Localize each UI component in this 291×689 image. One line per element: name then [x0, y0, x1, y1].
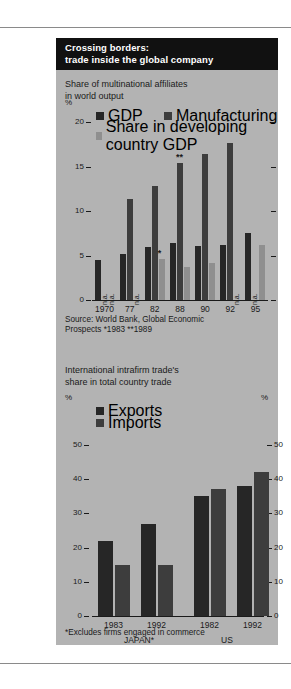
- y-tick-label-right: 0: [274, 611, 291, 620]
- divider-bottom: [0, 663, 291, 664]
- bar: [245, 233, 251, 300]
- bar: [194, 496, 209, 616]
- y-tick-mark-right: [271, 256, 276, 257]
- chart-international-intrafirm-trade: 00101020203030404050501983199219821992JA…: [56, 368, 278, 633]
- y-tick-mark-right: [267, 616, 272, 617]
- y-tick-label-right: 20: [274, 543, 291, 552]
- x-tick-label: 88: [167, 304, 192, 314]
- x-tick-label: 95: [243, 304, 268, 314]
- y-tick-mark: [84, 548, 89, 549]
- y-tick-label: 20: [62, 117, 84, 126]
- divider-top: [0, 27, 291, 28]
- bar: [120, 254, 126, 300]
- bar: [177, 163, 183, 300]
- y-tick-label: 10: [60, 577, 82, 586]
- y-tick-label: 40: [60, 474, 82, 483]
- chart1-source: Source: World Bank, Global Economic Pros…: [65, 315, 204, 335]
- bar: [227, 143, 233, 300]
- bar: [237, 486, 252, 616]
- bar: [170, 243, 176, 300]
- chart-share-of-multinational-affiliates: 05101520n.a.n.a.1970n.a.77828890n.a.92n.…: [56, 38, 278, 308]
- y-tick-label-right: 10: [274, 577, 291, 586]
- bar: [211, 489, 226, 616]
- bar: [195, 246, 201, 300]
- bar: [254, 472, 269, 616]
- x-tick-label: 1992: [231, 620, 274, 630]
- y-tick-mark: [84, 616, 89, 617]
- bar: [127, 199, 133, 300]
- y-tick-mark: [84, 513, 89, 514]
- bar: [152, 186, 158, 300]
- bar: [141, 524, 156, 616]
- y-tick-mark-right: [271, 211, 276, 212]
- x-tick-label: 77: [117, 304, 142, 314]
- chart2-footnote: *Excludes firms engaged in commerce: [65, 628, 205, 637]
- bar: [159, 259, 165, 300]
- bar: [95, 260, 101, 300]
- x-axis-baseline: [92, 616, 264, 617]
- y-tick-label: 0: [60, 611, 82, 620]
- y-tick-mark-right: [271, 167, 276, 168]
- y-tick-label: 15: [62, 162, 84, 171]
- bar-annotation: **: [176, 152, 183, 162]
- x-tick-label: 92: [218, 304, 243, 314]
- bar: [115, 565, 130, 616]
- y-tick-label-right: 40: [274, 474, 291, 483]
- x-tick-label: 1970: [92, 304, 117, 314]
- y-tick-label-right: 50: [274, 440, 291, 449]
- y-tick-mark-right: [271, 300, 276, 301]
- bar-annotation: *: [158, 248, 162, 258]
- x-axis-baseline: [92, 300, 268, 301]
- y-tick-label-right: 30: [274, 508, 291, 517]
- y-tick-mark-right: [271, 122, 276, 123]
- y-tick-mark: [86, 300, 91, 301]
- y-tick-label: 30: [60, 508, 82, 517]
- y-tick-mark: [84, 479, 89, 480]
- bar: [158, 565, 173, 616]
- y-tick-mark: [86, 122, 91, 123]
- bar: [145, 247, 151, 300]
- bar: [209, 263, 215, 300]
- y-tick-mark: [86, 167, 91, 168]
- x-tick-label: 90: [193, 304, 218, 314]
- bar: [98, 541, 113, 616]
- y-tick-label: 20: [60, 543, 82, 552]
- bar: [202, 154, 208, 300]
- y-tick-mark-right: [267, 445, 272, 446]
- x-tick-label: 82: [142, 304, 167, 314]
- bar: [259, 245, 265, 300]
- y-tick-mark: [86, 211, 91, 212]
- y-tick-label: 0: [62, 295, 84, 304]
- y-tick-label: 5: [62, 251, 84, 260]
- y-tick-mark: [84, 445, 89, 446]
- y-tick-label: 10: [62, 206, 84, 215]
- page-root: Crossing borders: trade inside the globa…: [0, 0, 291, 689]
- y-tick-mark: [86, 256, 91, 257]
- infographic-panel: Crossing borders: trade inside the globa…: [56, 38, 278, 645]
- y-tick-mark: [84, 582, 89, 583]
- bar: [184, 267, 190, 300]
- bar: [220, 245, 226, 300]
- y-tick-label: 50: [60, 440, 82, 449]
